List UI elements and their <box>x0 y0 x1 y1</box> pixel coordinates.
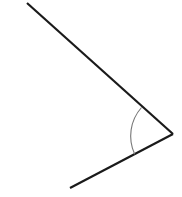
figure-background <box>0 0 182 197</box>
angle-figure-canvas <box>0 0 182 197</box>
angle-figure-svg <box>0 0 182 197</box>
